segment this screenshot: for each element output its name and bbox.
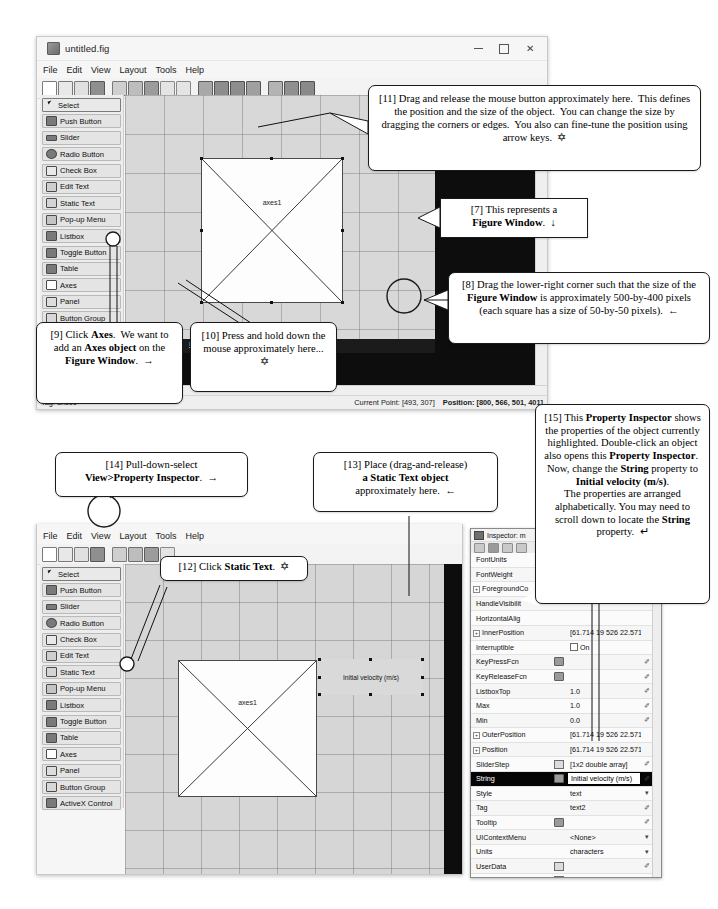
function-handle-icon[interactable] — [554, 657, 564, 666]
palette-item-listbox[interactable]: Listbox — [42, 229, 121, 243]
resize-handle-e[interactable] — [341, 229, 344, 232]
tab-order-editor-icon[interactable] — [230, 81, 245, 96]
inspector-row-keypressfcn[interactable]: KeyPressFcn✐ — [471, 655, 653, 670]
inspector-property-control[interactable] — [551, 774, 567, 783]
palette2-item-button-group[interactable]: Button Group — [42, 780, 121, 794]
palette2-item-popup-menu[interactable]: Pop-up Menu — [42, 682, 121, 696]
palette2-item-activex-control[interactable]: ActiveX Control — [42, 796, 121, 810]
edit-icon-2[interactable] — [74, 547, 89, 562]
cut-icon[interactable] — [112, 81, 127, 96]
resize-handle-nw[interactable] — [200, 157, 203, 160]
menu-edit-2[interactable]: Edit — [67, 531, 89, 541]
component-palette-2[interactable]: Select Push Button Slider Radio Button C… — [40, 564, 124, 808]
inspector-row-innerposition[interactable]: +InnerPosition[61.714 19 526 22.571... — [471, 626, 653, 641]
palette2-item-listbox[interactable]: Listbox — [42, 698, 121, 712]
menubar-2[interactable]: File Edit View Layout Tools Help — [37, 527, 462, 544]
inspector-property-value[interactable]: 0.0 — [567, 716, 641, 725]
menu-view-2[interactable]: View — [91, 531, 116, 541]
inspector-row-horizontalalig[interactable]: HorizontalAlig — [471, 611, 653, 626]
redo-icon[interactable] — [176, 81, 191, 96]
selection-dot-nw[interactable] — [318, 658, 321, 661]
paste-icon[interactable] — [144, 81, 159, 96]
open-folder-icon-2[interactable] — [58, 547, 73, 562]
resize-handle-se[interactable] — [341, 301, 344, 304]
alphabetical-view-icon[interactable] — [488, 543, 499, 553]
palette-item-slider[interactable]: Slider — [42, 131, 121, 145]
palette-item-static-text[interactable]: Static Text — [42, 196, 121, 210]
palette-item-table[interactable]: Table — [42, 262, 121, 276]
checkbox-icon[interactable] — [570, 643, 578, 651]
show-properties-icon[interactable] — [502, 543, 513, 553]
menu-edit[interactable]: Edit — [67, 65, 89, 75]
inspector-row-tooltip[interactable]: Tooltip✐ — [471, 816, 653, 831]
inspector-row-min[interactable]: Min0.0✐ — [471, 714, 653, 729]
menu-layout[interactable]: Layout — [119, 65, 152, 75]
resize-handle-ne[interactable] — [341, 157, 344, 160]
axes-object-2[interactable]: axes1 — [178, 660, 317, 797]
inspector-property-value[interactable]: [1x2 double array] — [567, 760, 641, 769]
menu-view[interactable]: View — [91, 65, 116, 75]
palette-item-select[interactable]: Select — [42, 98, 121, 112]
edit-icon[interactable] — [74, 81, 89, 96]
expand-icon[interactable]: + — [473, 747, 480, 754]
inspector-row-listboxtop[interactable]: ListboxTop1.0✐ — [471, 684, 653, 699]
inspector-row-value[interactable]: Value0.0✐ — [471, 874, 653, 877]
menu-help[interactable]: Help — [185, 65, 210, 75]
inspector-row-sliderstep[interactable]: SliderStep[1x2 double array]✐ — [471, 757, 653, 772]
inspector-row-tag[interactable]: Tagtext2✐ — [471, 801, 653, 816]
selection-dot-n[interactable] — [369, 658, 372, 661]
resize-handle-w[interactable] — [200, 229, 203, 232]
selection-dot-e[interactable] — [421, 676, 424, 679]
palette-item-toggle-button[interactable]: Toggle Button — [42, 246, 121, 260]
palette-item-push-button[interactable]: Push Button — [42, 114, 121, 128]
palette2-item-radio-button[interactable]: Radio Button — [42, 616, 121, 630]
selection-dot-ne[interactable] — [421, 658, 424, 661]
inspector-property-control[interactable] — [551, 862, 567, 871]
menu-file-2[interactable]: File — [43, 531, 64, 541]
palette-item-edit-text[interactable]: Edit Text — [42, 180, 121, 194]
run-icon[interactable] — [322, 82, 335, 95]
save-icon-2[interactable] — [90, 547, 105, 562]
selection-dot-se[interactable] — [421, 693, 424, 696]
minimize-button[interactable] — [465, 38, 491, 60]
inspector-property-control[interactable] — [551, 672, 567, 681]
palette2-item-select[interactable]: Select — [42, 567, 121, 581]
inspector-property-value[interactable]: <None> — [567, 833, 641, 842]
inspector-row-position[interactable]: +Position[61.714 19 526 22.571... — [471, 743, 653, 758]
expand-icon[interactable]: + — [473, 732, 480, 739]
inspector-row-units[interactable]: Unitscharacters▾ — [471, 845, 653, 860]
palette2-item-static-text[interactable]: Static Text — [42, 665, 121, 679]
palette-item-popup-menu[interactable]: Pop-up Menu — [42, 213, 121, 227]
palette-item-radio-button[interactable]: Radio Button — [42, 147, 121, 161]
resize-handle-n[interactable] — [270, 157, 273, 160]
show-all-icon[interactable] — [516, 543, 527, 553]
menu-layout-2[interactable]: Layout — [119, 531, 152, 541]
inspector-row-userdata[interactable]: UserData✐ — [471, 859, 653, 874]
palette2-item-panel[interactable]: Panel — [42, 764, 121, 778]
palette-item-check-box[interactable]: Check Box — [42, 164, 121, 178]
undo-icon[interactable] — [160, 81, 175, 96]
align-objects-icon[interactable] — [198, 81, 213, 96]
maximize-button[interactable] — [491, 38, 517, 60]
resize-handle-sw[interactable] — [200, 301, 203, 304]
new-file-icon[interactable] — [42, 81, 57, 96]
palette2-item-axes[interactable]: Axes — [42, 747, 121, 761]
inspector-property-control[interactable] — [551, 818, 567, 827]
function-handle-icon[interactable] — [554, 774, 564, 783]
inspector-row-style[interactable]: Styletext▾ — [471, 787, 653, 802]
inspector-property-value[interactable]: text — [567, 789, 641, 798]
menu-tools-2[interactable]: Tools — [155, 531, 182, 541]
m-file-editor-icon[interactable] — [268, 81, 283, 96]
menu-tools[interactable]: Tools — [155, 65, 182, 75]
menu-file[interactable]: File — [43, 65, 64, 75]
copy-icon[interactable] — [128, 81, 143, 96]
palette-item-panel[interactable]: Panel — [42, 295, 121, 309]
selection-dot-w[interactable] — [318, 676, 321, 679]
inspector-property-value[interactable]: 0.0 — [567, 876, 641, 877]
palette2-item-toggle-button[interactable]: Toggle Button — [42, 715, 121, 729]
static-text-object[interactable]: Initial velocity (m/s) — [319, 659, 423, 695]
inspector-row-keyreleasefcn[interactable]: KeyReleaseFcn✐ — [471, 670, 653, 685]
palette-item-axes[interactable]: Axes — [42, 278, 121, 292]
categorized-view-icon[interactable] — [474, 543, 485, 553]
inspector-property-value[interactable]: text2 — [567, 803, 641, 812]
